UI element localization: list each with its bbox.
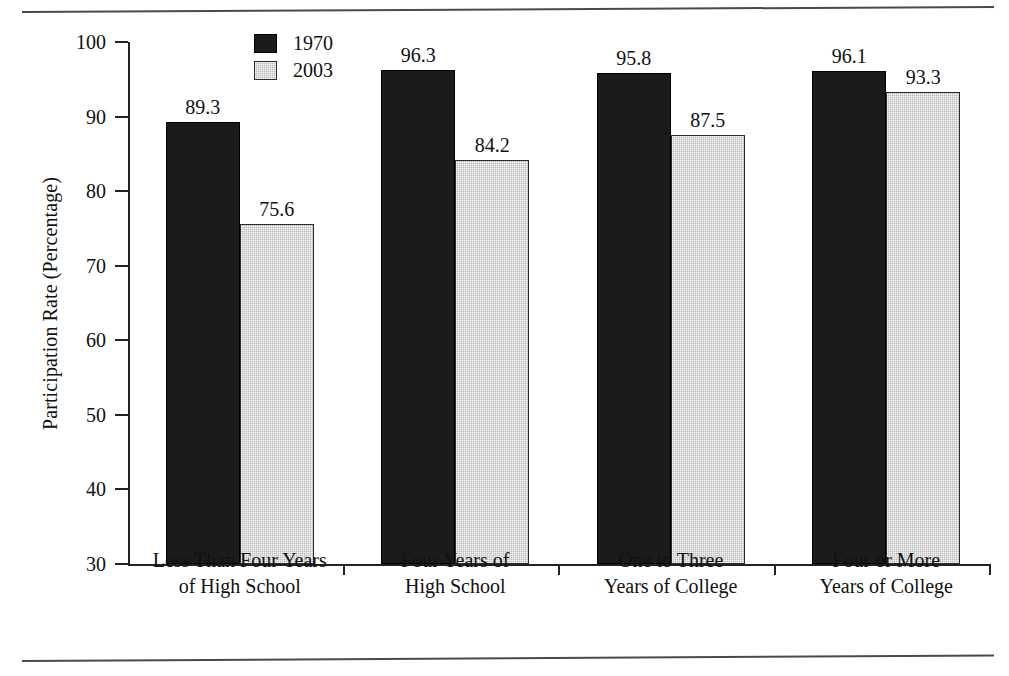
- bar-value-label: 95.8: [616, 47, 651, 70]
- bar-2003-4: 93.3: [886, 92, 960, 564]
- bar-value-label: 89.3: [185, 96, 220, 119]
- y-axis-title: Participation Rate (Percentage): [39, 94, 62, 514]
- legend-item-1970: 1970: [254, 30, 333, 57]
- y-tick: 80: [115, 190, 128, 192]
- bar-value-label: 75.6: [259, 198, 294, 221]
- x-category-label: Four or More Years of College: [771, 548, 1003, 599]
- bar-2003-2: 84.2: [455, 160, 529, 564]
- x-category-label: Less Than Four Years of High School: [124, 548, 356, 599]
- chart-legend: 19702003: [254, 30, 333, 84]
- bar-2003-3: 87.5: [671, 135, 745, 564]
- y-tick: 60: [115, 339, 128, 341]
- y-tick-label: 80: [86, 180, 106, 203]
- bar-1970-1: 89.3: [166, 122, 240, 564]
- y-tick-label: 60: [86, 329, 106, 352]
- y-axis-line: [128, 42, 130, 566]
- y-tick: 40: [115, 488, 128, 490]
- y-tick: 50: [115, 414, 128, 416]
- y-tick: 70: [115, 265, 128, 267]
- x-category-label: Four Years of High School: [340, 548, 572, 599]
- bar-chart-figure: Participation Rate (Percentage) 30405060…: [0, 0, 1009, 676]
- bar-value-label: 84.2: [475, 134, 510, 157]
- bar-1970-4: 96.1: [812, 71, 886, 564]
- plot-area: 30405060708090100 89.375.696.384.295.887…: [128, 42, 990, 566]
- y-tick-label: 50: [86, 403, 106, 426]
- bar-2003-1: 75.6: [240, 224, 314, 564]
- y-tick: 90: [115, 116, 128, 118]
- bar-value-label: 96.3: [401, 44, 436, 67]
- y-tick-label: 30: [86, 553, 106, 576]
- legend-item-2003: 2003: [254, 57, 333, 84]
- legend-label-2003: 2003: [293, 59, 333, 82]
- bar-1970-3: 95.8: [597, 73, 671, 564]
- bar-value-label: 87.5: [690, 109, 725, 132]
- y-tick: 100: [115, 41, 128, 43]
- x-category-label: One to Three Years of College: [555, 548, 787, 599]
- legend-swatch-2003: [254, 61, 277, 80]
- bar-1970-2: 96.3: [381, 70, 455, 564]
- y-tick-label: 90: [86, 105, 106, 128]
- legend-label-1970: 1970: [293, 32, 333, 55]
- y-tick-label: 100: [76, 31, 106, 54]
- y-tick-label: 70: [86, 254, 106, 277]
- bar-value-label: 93.3: [906, 66, 941, 89]
- legend-swatch-1970: [254, 34, 277, 53]
- bar-value-label: 96.1: [832, 45, 867, 68]
- y-tick-label: 40: [86, 478, 106, 501]
